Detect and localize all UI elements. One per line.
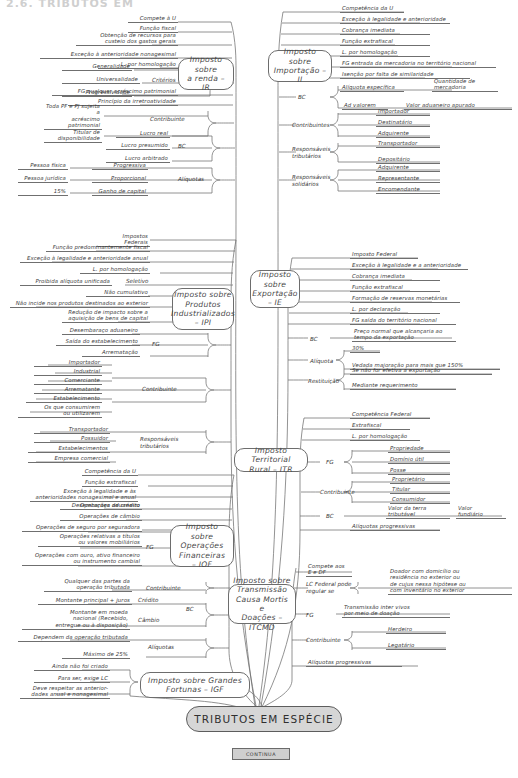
topic-imposto-importacao[interactable]: Imposto sobre Importação – II	[268, 50, 332, 82]
ii-contribuinte-destinatario: Destinatário	[376, 119, 430, 127]
iof-bc-montante-moeda: Montante em moeda nacional (Recebido, en…	[22, 609, 130, 630]
ipi-item-lancamento-homologacao: L. por homologação	[80, 266, 150, 274]
ir-group-contribuinte-label: Contribuinte	[150, 116, 196, 123]
iof-group-fg-label: FG	[146, 544, 166, 551]
iof-item-excecao-legalidade: Exceção à legalidade e às anterioridades…	[30, 488, 138, 502]
igf-item-exige-lc: Para ser, exige LC	[34, 675, 110, 683]
iof-fg-ouro: Operações com ouro, ativo financeiro ou …	[22, 552, 142, 566]
ie-group-aliquota-label: Alíquota	[310, 358, 338, 365]
iof-fg-seguro: Operações de seguro por seguradora	[22, 524, 142, 532]
ir-sub-pessoa-juridica: Pessoa jurídica	[18, 175, 68, 183]
ipi-resp-transportador: Transportador	[34, 426, 110, 434]
iof-bc-credito-label: Crédito	[138, 597, 172, 604]
continua-badge[interactable]: CONTINUA	[232, 748, 290, 760]
iof-group-contribuinte-label: Contribuinte	[146, 585, 192, 592]
itr-item-aliquotas-progressivas: Alíquotas progressivas	[350, 523, 440, 531]
ir-item-excecao-anterioridade: Exceção à anterioridade nonagesimal	[40, 51, 178, 59]
topic-imposto-ipi[interactable]: Imposto sobre Produtos Industrializados …	[172, 288, 234, 330]
igf-item-anterioridades: Deve respeitar as anterior- dades anual …	[20, 685, 110, 699]
itr-bc-valor-terra: Valor da terra tributável	[386, 505, 450, 519]
ipi-resp-possuidor: Possuidor	[34, 435, 110, 443]
itcmd-group-lc-federal-label: LC Federal pode regular se	[306, 581, 358, 594]
itcmd-contribuinte-legatario: Legatário	[386, 642, 446, 650]
itr-item-lancamento-homologacao: L. por homologação	[350, 433, 420, 441]
itr-item-competencia-federal: Competência Federal	[350, 411, 430, 419]
ie-restituicao-nao-efetiva: Se não for efetiva a exportação	[350, 367, 492, 375]
ie-item-imposto-federal: Imposto Federal	[350, 251, 418, 259]
topic-imposto-exportacao[interactable]: Imposto sobre Exportação – IE	[250, 270, 300, 308]
itcmd-item-compete-e-df: Compete aos E e DF	[306, 563, 352, 577]
topic-imposto-igf[interactable]: Imposto sobre Grandes Fortunas – IGF	[140, 672, 250, 698]
ir-item-obtencao-recursos: Obtenção de recursos para custeio dos ga…	[76, 32, 178, 46]
ii-bc-aliquota-especifica: Alíquota específica	[340, 84, 404, 92]
itr-contribuinte-titular: Titular	[390, 486, 450, 494]
iof-bc-montante-juros: Montante principal + juros	[38, 597, 132, 605]
iof-fg-titulos: Operações relativas a títulos ou valores…	[38, 533, 142, 547]
ie-item-excecao-legalidade: Exceção à legalidade e a anterioridade	[350, 262, 468, 270]
itr-group-bc-label: BC	[326, 513, 344, 520]
itr-fg-propriedade: Propriedade	[388, 445, 450, 453]
ipi-fg-arrematacao: Arrematação	[82, 349, 140, 357]
ipi-item-nao-cumulativo: Não cumulativo	[86, 289, 150, 297]
ipi-item-nao-incide-exterior: Não incide nos produtos destinados ao ex…	[10, 300, 150, 308]
ir-aliquota-proporcional: Proporcional	[92, 175, 148, 183]
iof-contribuinte-partes: Qualquer das partes da operação tributad…	[44, 578, 132, 592]
ie-bc-preco-normal: Preço normal que alcançaria ao tempo da …	[352, 328, 456, 342]
ii-item-cobranca-imediata: Cobrança imediata	[340, 27, 430, 35]
ie-restituicao-requerimento: Mediante requerimento	[350, 382, 456, 390]
itr-contribuinte-consumidor: Consumidor	[390, 496, 450, 504]
ipi-contribuinte-comerciante: Comerciante	[34, 377, 102, 385]
ipi-resp-empresa-comercial: Empresa comercial	[28, 455, 110, 463]
ipi-group-fg-label: FG	[152, 341, 172, 348]
mindmap-canvas: 2.6. TRIBUTOS EM	[0, 0, 518, 778]
ir-criterio-progressividade: Progressividade	[62, 89, 132, 97]
ir-contribuinte-pf-pj: Toda PF e PJ sujeita a acréscimo patrimo…	[44, 103, 102, 130]
page-title: 2.6. TRIBUTOS EM	[6, 0, 134, 10]
ii-solid-representante: Representante	[376, 175, 440, 183]
ii-solid-encomendante: Encomendante	[376, 186, 440, 194]
topic-imposto-itr[interactable]: Imposto Territorial Rural – ITR	[234, 448, 308, 472]
igf-item-nao-criado: Ainda não foi criado	[34, 663, 110, 671]
root-node-tributos-em-especie[interactable]: TRIBUTOS EM ESPÉCIE	[186, 706, 342, 732]
topic-imposto-iof[interactable]: Imposto sobre Operações Financeiras – IO…	[170, 525, 234, 567]
ii-solid-adquirente: Adquirente	[376, 164, 440, 172]
ipi-contribuinte-importador: Importador	[34, 359, 102, 367]
itr-fg-posse: Posse	[388, 467, 450, 475]
ipi-item-reducao-impacto: Redução de impacto sobre a aquisição de …	[62, 309, 150, 323]
ir-aliquota-progressiva: Progressiva	[92, 162, 148, 170]
ii-item-competencia-u: Competência da U	[340, 5, 404, 13]
itr-contribuinte-proprietario: Proprietário	[390, 476, 450, 484]
ii-contribuinte-importador: Importador	[376, 108, 430, 116]
iof-aliquota-maximo: Máximo de 25%	[62, 651, 130, 659]
iof-aliquota-dependem: Dependem da operação tributada	[18, 634, 130, 642]
itcmd-group-contribuinte-label: Contribuinte	[306, 637, 352, 644]
topic-imposto-itcmd[interactable]: Imposto sobre Transmissão Causa Mortis e…	[228, 584, 296, 624]
ir-group-bc-label: BC	[178, 143, 198, 150]
ipi-fg-desembaraco: Desembaraço aduaneiro	[62, 327, 140, 335]
itr-group-fg-label: FG	[326, 459, 344, 466]
itcmd-item-aliquotas-progressivas: Alíquotas progressivas	[306, 659, 402, 667]
ir-bc-lucro-real: Lucro real	[116, 130, 170, 138]
ir-aliquota-ganho-capital: Ganho de capital	[92, 188, 148, 196]
itr-item-extrafiscal: Extrafiscal	[350, 422, 410, 430]
ir-sub-quinze-porcento: 15%	[18, 188, 68, 196]
itr-bc-valor-fundiario: Valor fundiário	[456, 505, 506, 519]
ir-criterio-generalidade: Generalidade	[62, 63, 132, 71]
itr-group-contribuinte-label: Contribuinte	[320, 489, 368, 496]
iof-group-bc-label: BC	[186, 606, 204, 613]
ie-item-fg-saida: FG saída do território nacional	[350, 317, 456, 325]
ii-item-excecao-legalidade: Exceção à legalidade e anterioridade	[340, 16, 450, 24]
ipi-item-funcao-fiscal: Função predominantemente fiscal	[46, 244, 150, 252]
ie-item-lancamento-declaracao: L. por declaração	[350, 306, 440, 314]
ir-bc-lucro-presumido: Lucro presumido	[106, 142, 170, 150]
ii-contribuinte-adquirente: Adquirente	[376, 130, 430, 138]
ipi-item-proibida-aliquota: Proibida alíquota unificada	[20, 278, 112, 286]
ir-criterio-universalidade: Universalidade	[62, 76, 140, 84]
topic-imposto-renda[interactable]: Imposto sobre a renda – IR	[178, 58, 234, 90]
iof-item-funcao-extrafiscal: Função extrafiscal	[82, 479, 138, 487]
ir-group-aliquotas-label: Alíquotas	[178, 176, 218, 183]
itr-fg-dominio-util: Domínio útil	[388, 456, 450, 464]
ipi-contribuinte-industrial: Industrial	[34, 368, 102, 376]
iof-fg-credito: Operações de crédito	[60, 502, 142, 510]
ipi-item-excecao-legalidade: Exceção à legalidade e anterioridade anu…	[20, 255, 150, 263]
